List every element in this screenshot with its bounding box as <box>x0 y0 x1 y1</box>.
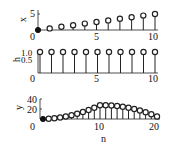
x-tick-label: 10 <box>94 121 104 132</box>
y-tick-label: 5 <box>30 8 35 19</box>
stem-marker <box>152 11 157 16</box>
stem-marker <box>141 49 146 54</box>
stem-marker <box>72 49 77 54</box>
stem-marker <box>106 49 111 54</box>
stem-marker <box>35 27 40 32</box>
stem-marker <box>52 116 57 121</box>
stem-marker <box>97 103 102 108</box>
y-tick-label: 0.5 <box>21 55 33 65</box>
x-tick-label: 20 <box>149 121 159 132</box>
stem-marker <box>132 106 137 111</box>
stem-marker <box>60 49 65 54</box>
plot-h: 1.0 0.5 h 0 5 10 <box>11 48 158 84</box>
x-tick-label: 0 <box>30 31 35 42</box>
stem-marker <box>143 110 148 115</box>
stem-marker <box>37 49 42 54</box>
stem-marker <box>47 26 52 31</box>
stem-marker <box>129 15 134 20</box>
stem-plots-figure: 5 x 0 5 10 1.0 0.5 h 0 5 10 40 20 y 0 10… <box>0 0 172 148</box>
stem-marker <box>141 13 146 18</box>
x-tick-label: 0 <box>30 121 35 132</box>
stem-marker <box>115 103 120 108</box>
plot-x: 5 x 0 5 10 <box>17 8 158 42</box>
stem-marker <box>92 105 97 110</box>
stem-marker <box>69 113 74 118</box>
stem-marker <box>83 49 88 54</box>
x-tick-label: 10 <box>148 31 158 42</box>
stem-marker <box>95 49 100 54</box>
x-tick-label: 5 <box>94 73 99 84</box>
y-axis-label: h <box>11 57 22 62</box>
x-tick-label: 10 <box>148 73 158 84</box>
stem-marker <box>75 111 80 116</box>
stem-marker <box>103 103 108 108</box>
y-tick-label: 20 <box>27 104 37 115</box>
stem-marker <box>58 115 63 120</box>
stem-marker <box>129 49 134 54</box>
stem-marker <box>46 116 51 121</box>
stem-marker <box>86 107 91 112</box>
stem-marker <box>117 16 122 21</box>
plot-y: 40 20 y 0 10 20 n <box>13 94 160 144</box>
stem-marker <box>152 49 157 54</box>
x-tick-label: 5 <box>94 31 99 42</box>
stem-marker <box>154 114 159 119</box>
stem-marker <box>59 24 64 29</box>
stem-marker <box>94 19 99 24</box>
stem-marker <box>120 104 125 109</box>
y-axis-label: y <box>13 105 24 110</box>
stem-marker <box>109 103 114 108</box>
stem-marker <box>49 49 54 54</box>
stem-marker <box>80 109 85 114</box>
stem-marker <box>82 21 87 26</box>
stem-marker <box>126 105 131 110</box>
stem-marker <box>71 23 76 28</box>
stem-marker <box>137 108 142 113</box>
y-axis-label: x <box>17 17 28 22</box>
stem-marker <box>118 49 123 54</box>
x-tick-label: 0 <box>30 73 35 84</box>
stem-marker <box>106 18 111 23</box>
stem-marker <box>40 116 45 121</box>
stem-marker <box>63 114 68 119</box>
x-axis-label: n <box>101 133 106 144</box>
stem-marker <box>149 112 154 117</box>
